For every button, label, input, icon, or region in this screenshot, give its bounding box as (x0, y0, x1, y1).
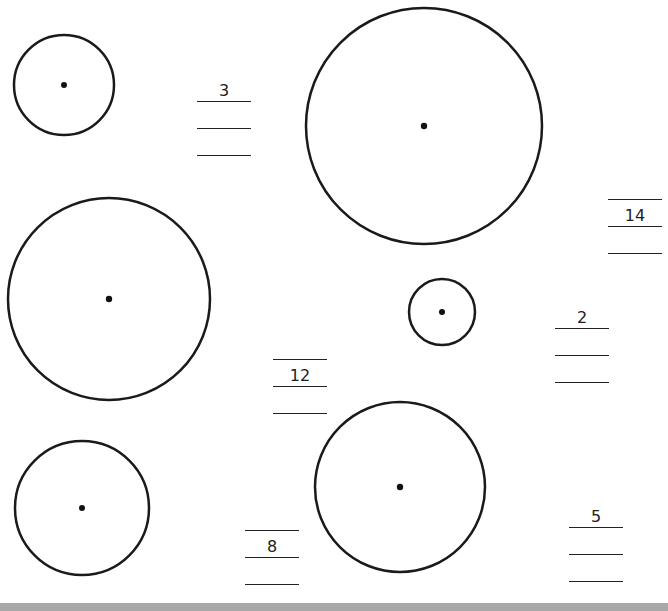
radius-answer[interactable] (245, 511, 299, 531)
diameter-answer[interactable]: 12 (273, 367, 327, 387)
diameter-answer[interactable]: 14 (608, 207, 662, 227)
radius-answer[interactable] (608, 180, 662, 200)
circles-drawing (0, 0, 668, 611)
diameter-answer[interactable] (197, 109, 251, 129)
circle-c-center (106, 296, 112, 302)
radius-answer[interactable] (273, 340, 327, 360)
diameter-answer[interactable] (555, 336, 609, 356)
circumference-answer[interactable] (608, 234, 662, 254)
diameter-answer[interactable] (569, 535, 623, 555)
radius-answer[interactable]: 3 (197, 82, 251, 102)
circle-a-center (61, 82, 67, 88)
circumference-answer[interactable] (245, 565, 299, 585)
diameter-answer[interactable]: 8 (245, 538, 299, 558)
circumference-answer[interactable] (569, 562, 623, 582)
circumference-answer[interactable] (555, 363, 609, 383)
circumference-answer[interactable] (273, 394, 327, 414)
circumference-answer[interactable] (197, 136, 251, 156)
circle-d-center (439, 309, 445, 315)
radius-answer[interactable]: 5 (569, 508, 623, 528)
circle-f-center (397, 484, 403, 490)
page-bottom-border (0, 603, 668, 611)
circle-b-center (421, 123, 427, 129)
circle-e-center (79, 505, 85, 511)
radius-answer[interactable]: 2 (555, 309, 609, 329)
